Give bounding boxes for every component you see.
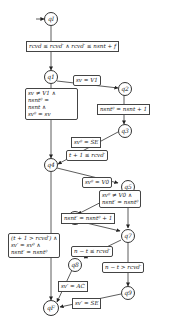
guard-q7-q8: n − t ≤ rcvd′ <box>71 246 113 257</box>
guard-q4-q5: t + 1 ≤ rcvd′ <box>66 150 108 161</box>
state-q9: q9 <box>121 286 135 300</box>
guard-line: (t + 1 > rcvd′) ∧ <box>11 235 57 242</box>
guard-line: nsnt ∧ <box>28 104 75 111</box>
guard-q9-qF: sv′ = SE <box>72 298 101 309</box>
guard-q6-q7: nsnt′ = nsnt⁰ + 1 <box>61 213 115 224</box>
guard-line: sv′ = sv⁰ ∧ <box>11 242 57 249</box>
guard-q1-q2: sv = V1 <box>73 75 101 86</box>
guard-q3-q4: sv⁰ = SE <box>71 137 101 148</box>
guard-line: sv ≠ V1 ∧ <box>28 90 75 97</box>
state-q4: q4 <box>44 158 58 172</box>
state-q7: q7 <box>121 229 135 243</box>
state-qF: qF <box>43 300 59 316</box>
guard-q5-q6: sv⁰ = V0 <box>82 177 112 188</box>
guard-q1-q4: sv ≠ V1 ∧ nsnt⁰ = nsnt ∧ sv⁰ = sv <box>25 88 78 120</box>
guard-line: sv⁰ ≠ V0 ∧ <box>102 192 138 199</box>
guard-line: nsnt′ = nsnt⁰ <box>11 249 57 256</box>
guard-line: sv⁰ = sv <box>28 111 75 118</box>
state-q8: q8 <box>68 258 82 272</box>
state-q2: q2 <box>118 82 132 96</box>
guard-q2-q3: nsnt⁰ = nsnt + 1 <box>97 104 150 115</box>
guard-init: rcvd ≤ rcvd′ ∧ rcvd′ ≤ nsnt + f <box>26 41 119 52</box>
guard-q8-qF: sv′ = AC <box>58 281 88 292</box>
state-qI: qI <box>44 12 58 26</box>
state-q3: q3 <box>118 124 132 138</box>
guard-q7-q9: n − t > rcvd′ <box>102 262 144 273</box>
state-q1: q1 <box>44 70 58 84</box>
guard-line: nsnt′ = nsnt⁰ <box>102 199 138 206</box>
guard-q4-qF: (t + 1 > rcvd′) ∧ sv′ = sv⁰ ∧ nsnt′ = ns… <box>8 233 60 258</box>
guard-line: nsnt⁰ = <box>28 97 75 104</box>
guard-q5-q7: sv⁰ ≠ V0 ∧ nsnt′ = nsnt⁰ <box>99 190 141 208</box>
